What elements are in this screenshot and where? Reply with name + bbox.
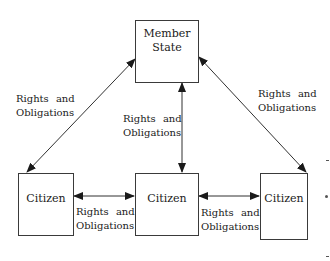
edge-label-citizen-left-middle: Rights and Obligations bbox=[76, 205, 135, 233]
edge-artifact-mark bbox=[325, 195, 328, 198]
citizen-middle-node: Citizen bbox=[135, 173, 199, 236]
member-state-label-line2: State bbox=[143, 41, 190, 55]
edge-label-state-citizen-right: Rights and Obligations bbox=[258, 87, 317, 115]
citizen-right-node: Citizen bbox=[260, 173, 308, 240]
edge-label-state-citizen-left: Rights and Obligations bbox=[16, 92, 75, 120]
citizen-left-node: Citizen bbox=[18, 173, 74, 236]
member-state-label-line1: Member bbox=[143, 27, 190, 41]
member-state-node: Member State bbox=[135, 20, 199, 83]
citizen-right-label: Citizen bbox=[264, 192, 303, 206]
edge-label-state-citizen-middle: Rights and Obligations bbox=[123, 112, 182, 140]
diagram-canvas: Member State Citizen Citizen Citizen Rig… bbox=[0, 0, 330, 261]
citizen-left-label: Citizen bbox=[26, 192, 65, 206]
edge-artifact-mark bbox=[326, 256, 329, 257]
edge-artifact-mark bbox=[326, 160, 329, 161]
citizen-middle-label: Citizen bbox=[147, 192, 186, 206]
edge-label-citizen-middle-right: Rights and Obligations bbox=[201, 206, 260, 234]
